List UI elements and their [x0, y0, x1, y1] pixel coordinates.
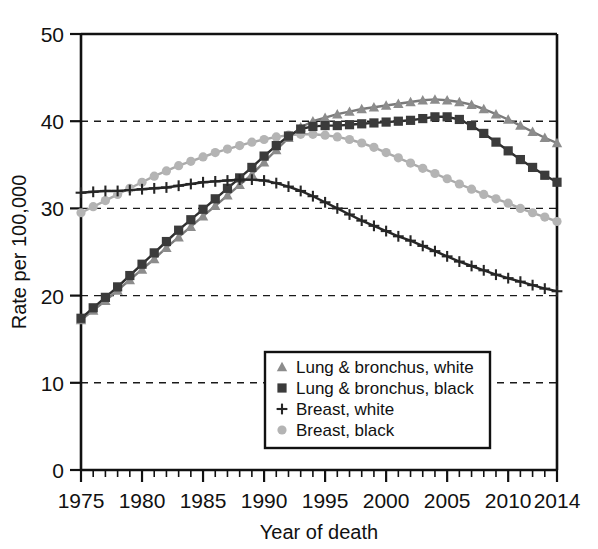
legend-label-2: Breast, white: [296, 400, 394, 419]
data-point-s3-2010: [504, 199, 513, 208]
x-tick-label-1990: 1990: [241, 489, 288, 512]
data-point-s3-2008: [479, 190, 488, 199]
x-tick-label-2000: 2000: [363, 489, 410, 512]
data-point-s1-1997: [345, 120, 354, 129]
x-tick-label-1985: 1985: [180, 489, 227, 512]
data-point-s3-1999: [369, 143, 378, 152]
data-point-s3-2011: [516, 204, 525, 213]
data-point-s1-2001: [394, 117, 403, 126]
data-point-s1-2012: [528, 163, 537, 172]
data-point-s1-1984: [186, 215, 195, 224]
data-point-s1-1993: [296, 124, 305, 133]
legend-label-1: Lung & bronchus, black: [296, 379, 474, 398]
trend-line-1: [81, 117, 557, 318]
y-tick-label-10: 10: [41, 372, 64, 395]
y-axis-title: Rate per 100,000: [8, 175, 30, 330]
data-point-s1-1982: [162, 237, 171, 246]
legend-marker-1: [277, 383, 286, 392]
data-point-s3-2007: [467, 185, 476, 194]
data-point-s1-2011: [516, 155, 525, 164]
data-point-s3-1990: [259, 135, 268, 144]
data-point-s1-1992: [284, 131, 293, 140]
data-point-s1-2003: [418, 114, 427, 123]
data-point-s3-1991: [272, 132, 281, 141]
data-point-s1-2002: [406, 116, 415, 125]
y-tick-label-0: 0: [52, 459, 64, 482]
data-point-s3-2009: [491, 194, 500, 203]
data-point-s3-2000: [382, 148, 391, 157]
data-point-s1-2007: [467, 121, 476, 130]
data-point-s1-1981: [150, 248, 159, 257]
data-point-s3-1996: [333, 132, 342, 141]
data-point-s3-1984: [186, 157, 195, 166]
data-point-s1-2005: [443, 112, 452, 121]
data-point-s1-1978: [113, 282, 122, 291]
data-point-s3-1989: [247, 138, 256, 147]
data-point-s1-1983: [174, 226, 183, 235]
data-point-s3-1998: [357, 138, 366, 147]
data-point-s3-1987: [223, 145, 232, 154]
x-axis-title: Year of death: [260, 521, 378, 543]
data-point-s3-2006: [455, 179, 464, 188]
data-point-s3-2003: [418, 164, 427, 173]
data-point-s1-1980: [137, 260, 146, 269]
legend-label-3: Breast, black: [296, 421, 395, 440]
data-point-s3-1983: [174, 161, 183, 170]
x-tick-label-1975: 1975: [58, 489, 105, 512]
data-point-s3-2013: [540, 213, 549, 222]
x-tick-label-2005: 2005: [424, 489, 471, 512]
data-point-s1-2000: [382, 117, 391, 126]
y-tick-label-50: 50: [41, 23, 64, 46]
data-point-s3-1977: [101, 196, 110, 205]
data-point-s1-1998: [357, 119, 366, 128]
data-point-s3-1981: [150, 172, 159, 181]
data-point-s1-1996: [333, 121, 342, 130]
data-point-s1-2013: [540, 171, 549, 180]
data-point-s3-2001: [394, 153, 403, 162]
data-point-s3-1997: [345, 135, 354, 144]
data-point-s3-1976: [89, 202, 98, 211]
data-point-s3-1982: [162, 166, 171, 175]
data-point-s1-2006: [455, 115, 464, 124]
data-point-s3-1985: [198, 152, 207, 161]
data-point-s1-1994: [308, 122, 317, 131]
data-point-s3-2014: [552, 217, 561, 226]
x-tick-label-2014: 2014: [534, 489, 581, 512]
data-point-s1-2010: [504, 146, 513, 155]
data-point-s1-2004: [430, 112, 439, 121]
y-tick-label-40: 40: [41, 110, 64, 133]
data-point-s1-1979: [125, 271, 134, 280]
data-point-s1-1990: [259, 151, 268, 160]
data-point-s1-1995: [321, 121, 330, 130]
data-point-s3-2005: [443, 174, 452, 183]
data-point-s3-1975: [76, 208, 85, 217]
data-point-s3-1986: [211, 148, 220, 157]
data-point-s1-1985: [198, 205, 207, 214]
data-point-s3-2002: [406, 158, 415, 167]
y-tick-label-20: 20: [41, 285, 64, 308]
data-point-s1-1989: [247, 163, 256, 172]
chart-container: 0102030405019751980198519901995200020052…: [0, 0, 598, 549]
data-point-s1-1999: [369, 118, 378, 127]
x-tick-label-1995: 1995: [302, 489, 349, 512]
data-point-s3-1994: [308, 130, 317, 139]
x-tick-label-2010: 2010: [485, 489, 532, 512]
data-point-s3-2004: [430, 169, 439, 178]
data-point-s1-2008: [479, 129, 488, 138]
y-tick-label-30: 30: [41, 197, 64, 220]
data-point-s1-1986: [211, 194, 220, 203]
legend-marker-3: [277, 425, 286, 434]
data-point-s1-1977: [101, 293, 110, 302]
data-point-s3-1988: [235, 141, 244, 150]
data-point-s1-1975: [76, 314, 85, 323]
data-point-s1-1991: [272, 141, 281, 150]
data-point-s3-1995: [321, 131, 330, 140]
x-tick-label-1980: 1980: [119, 489, 166, 512]
data-point-s3-2012: [528, 208, 537, 217]
rate-trend-line-chart: 0102030405019751980198519901995200020052…: [0, 0, 598, 549]
data-point-s1-2009: [491, 138, 500, 147]
data-point-s1-1976: [89, 303, 98, 312]
legend-label-0: Lung & bronchus, white: [296, 358, 474, 377]
data-point-s1-2014: [552, 178, 561, 187]
